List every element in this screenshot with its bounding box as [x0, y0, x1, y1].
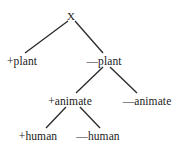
node-root: X	[67, 10, 75, 22]
edge-plus-animate-to-plus-human	[46, 107, 66, 128]
node-minus-animate: —animate	[123, 95, 172, 107]
node-plus-animate: +animate	[48, 95, 92, 107]
edge-plus-animate-to-minus-human	[80, 107, 100, 128]
edge-minus-plant-to-plus-animate	[76, 67, 103, 93]
node-minus-plant: —plant	[86, 55, 121, 67]
edge-root-to-minus-plant	[75, 21, 103, 53]
feature-tree-diagram: X +plant —plant +animate —animate +human…	[0, 0, 177, 152]
node-plus-human: +human	[19, 130, 57, 142]
node-minus-human: —human	[76, 130, 119, 142]
node-plus-plant: +plant	[7, 55, 37, 67]
edge-root-to-plus-plant	[25, 21, 68, 53]
edge-minus-plant-to-minus-animate	[110, 67, 137, 93]
